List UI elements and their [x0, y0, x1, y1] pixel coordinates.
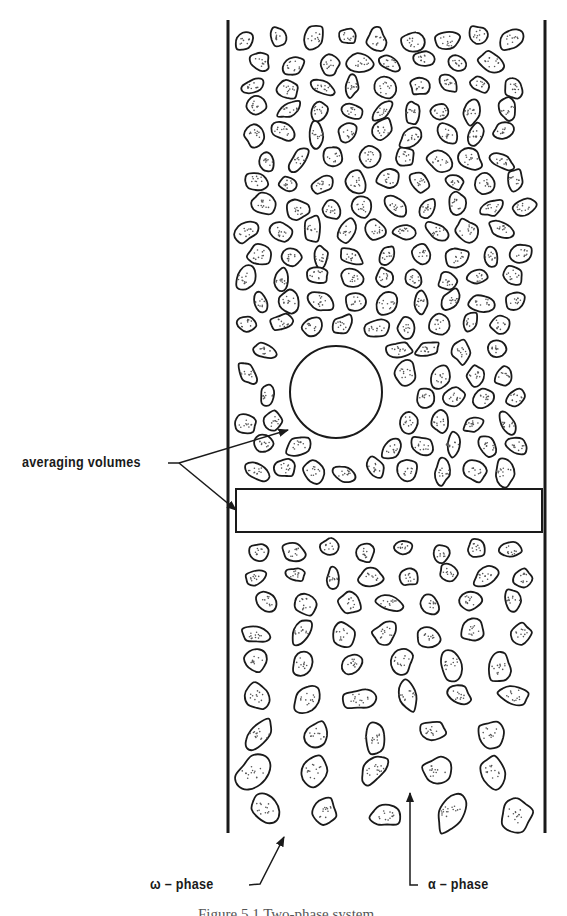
omega-phase-particle — [410, 78, 430, 94]
omega-phase-particle — [394, 360, 415, 386]
omega-phase-particle — [301, 755, 327, 787]
omega-phase-particle — [468, 539, 485, 557]
omega-phase-particle — [449, 192, 466, 215]
averaging-volumes-label: averaging volumes — [22, 454, 141, 470]
omega-phase-particle — [473, 389, 494, 409]
omega-phase-particle — [500, 412, 516, 435]
omega-phase-particle — [505, 78, 522, 98]
omega-phase-particle — [499, 97, 515, 121]
omega-phase-particle — [400, 568, 418, 585]
omega-phase-particle — [382, 439, 401, 459]
omega-phase-particle — [401, 32, 425, 51]
omega-phase-particle — [386, 342, 413, 357]
omega-phase-particle — [235, 754, 270, 789]
omega-phase-particle — [513, 568, 532, 587]
omega-phase-particle — [311, 80, 335, 96]
omega-phase-particle — [499, 542, 522, 557]
omega-phase-particle — [304, 721, 327, 747]
omega-phase-particle — [303, 460, 324, 484]
omega-phase-particle — [338, 591, 361, 613]
omega-phase-particle — [430, 104, 448, 120]
omega-phase-particle — [234, 222, 258, 244]
omega-phase-particle — [463, 460, 487, 482]
omega-phase-particle — [467, 365, 485, 387]
omega-phase-particle — [478, 436, 496, 457]
omega-phase-particle — [394, 541, 412, 554]
omega-phase-particle — [461, 618, 484, 640]
omega-phase-particle — [474, 566, 499, 586]
omega-phase-particle — [251, 193, 275, 215]
omega-phase-particle — [470, 76, 489, 93]
omega-phase-particle — [455, 219, 478, 243]
omega-phase-particle — [410, 172, 430, 192]
omega-phase-particle — [320, 538, 339, 555]
omega-phase-particle — [478, 51, 504, 73]
omega-phase-particle — [434, 545, 450, 563]
omega-phase-particle — [475, 173, 495, 194]
omega-phase-particle — [393, 225, 416, 239]
omega-phase-particle — [246, 570, 267, 585]
omega-phase-particle — [333, 467, 356, 483]
omega-phase-particle — [359, 146, 380, 168]
omega-phase-particle — [431, 365, 450, 389]
omega-phase-particle — [510, 245, 532, 263]
omega-phase-particle — [429, 314, 450, 335]
omega-phase-particle — [237, 317, 256, 332]
omega-phase-particle — [399, 679, 417, 711]
omega-phase-particle — [279, 177, 297, 192]
omega-phase-particle — [489, 221, 514, 238]
omega-phase-particle — [342, 104, 363, 119]
omega-phase-particle — [323, 147, 342, 166]
omega-phase-particle — [367, 456, 384, 477]
slab-averaging-volume — [236, 489, 542, 532]
omega-phase-particle — [376, 169, 399, 188]
omega-phase-particle — [435, 458, 450, 486]
omega-phase-particle — [345, 170, 365, 193]
omega-phase-particle — [459, 592, 482, 611]
omega-phase-particle — [246, 719, 272, 751]
omega-phase-particle — [308, 292, 334, 310]
omega-phase-particle — [311, 102, 328, 122]
omega-phase-particle — [397, 460, 417, 481]
omega-phase-particle — [241, 78, 263, 93]
omega-phase-particle — [373, 101, 393, 120]
omega-phase-particle — [446, 248, 469, 267]
omega-phase-particle — [493, 122, 514, 138]
omega-phase-particle — [490, 316, 510, 334]
omega-phase-particle — [245, 462, 269, 481]
omega-phase-particle — [439, 75, 456, 92]
omega-phase-particle — [506, 293, 525, 310]
omega-phase-label: ω – phase — [150, 876, 214, 892]
omega-phase-particle — [283, 57, 305, 75]
omega-phase-particle — [420, 594, 439, 614]
omega-phase-particle — [322, 200, 340, 219]
omega-phase-particle — [411, 437, 433, 455]
spherical-averaging-volume — [290, 346, 382, 438]
omega-phase-particle — [365, 219, 386, 240]
omega-phase-particle — [414, 291, 427, 315]
omega-phase-particle — [282, 248, 302, 266]
omega-phase-particle — [302, 317, 322, 336]
omega-phase-particles — [234, 26, 537, 834]
omega-phase-particle — [256, 592, 276, 612]
omega-phase-particle — [253, 343, 277, 358]
omega-phase-particle — [422, 757, 451, 784]
omega-phase-particle — [346, 293, 366, 311]
omega-phase-particle — [358, 568, 384, 586]
omega-phase-particle — [418, 627, 441, 647]
omega-phase-particle — [480, 756, 505, 790]
omega-phase-particle — [372, 622, 396, 645]
two-phase-system-figure: averaging volumes ω – phase α – phase Fi… — [0, 0, 567, 916]
omega-phase-particle — [342, 655, 363, 675]
omega-phase-particle — [366, 27, 386, 51]
omega-phase-particle — [375, 595, 403, 611]
omega-phase-particle — [341, 248, 363, 264]
omega-phase-particle — [304, 26, 323, 50]
omega-phase-particle — [352, 196, 372, 217]
omega-phase-particle — [282, 543, 305, 561]
omega-phase-particle — [295, 594, 317, 616]
omega-phase-particle — [412, 244, 430, 264]
omega-phase-particle — [362, 757, 388, 786]
omega-phase-particle — [497, 686, 528, 705]
omega-phase-particle — [338, 218, 357, 243]
